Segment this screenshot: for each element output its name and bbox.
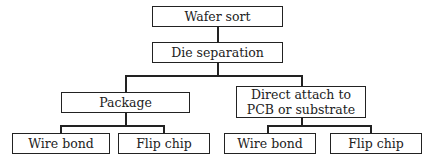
branch-line [267,125,371,127]
connector-line [125,75,127,92]
branch-line [125,75,302,77]
node-label: Wire bond [237,136,303,151]
connector-line [301,118,303,125]
branch-line [60,125,164,127]
node-label: Die separation [171,45,264,60]
node-direct-wire-bond: Wire bond [224,133,316,154]
node-label: Flip chip [348,136,404,151]
node-wafer-sort: Wafer sort [152,6,283,27]
node-package: Package [61,92,190,113]
node-package-wire-bond: Wire bond [12,133,110,154]
node-package-flip-chip: Flip chip [118,133,210,154]
node-label: Direct attach to PCB or substrate [247,87,355,117]
node-label: Flip chip [136,136,192,151]
node-label: Wafer sort [184,9,250,24]
node-direct-flip-chip: Flip chip [330,133,422,154]
connector-line [125,113,127,125]
node-label: Wire bond [28,136,94,151]
connector-line [217,27,219,42]
node-die-separation: Die separation [152,42,283,63]
node-direct-attach: Direct attach to PCB or substrate [236,86,366,118]
connector-line [217,63,219,75]
connector-line [301,75,303,86]
node-label: Package [99,95,152,110]
